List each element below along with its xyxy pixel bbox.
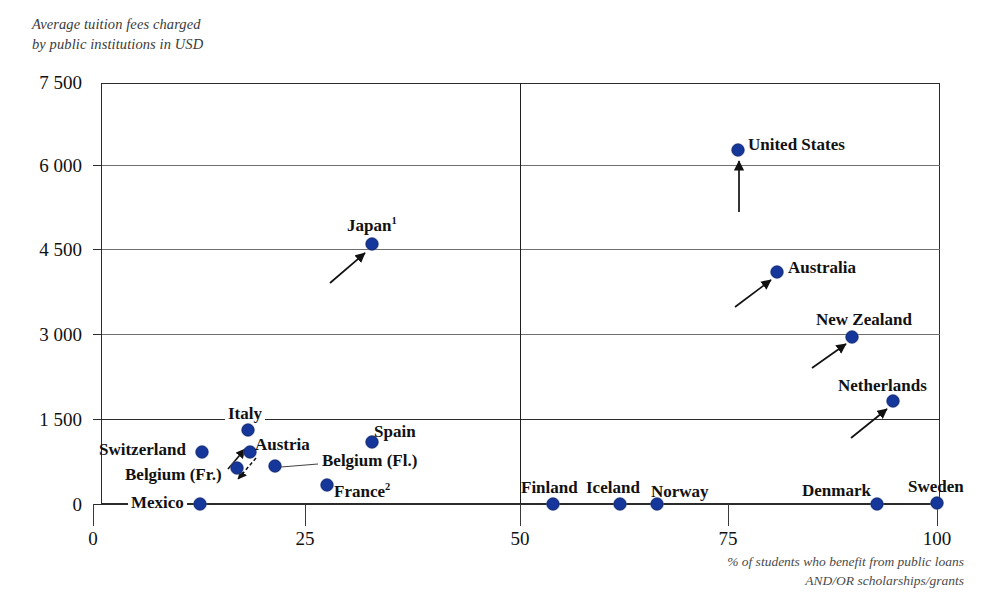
data-point-finland[interactable] <box>547 498 560 511</box>
label-iceland: Iceland <box>586 479 640 496</box>
label-sweden: Sweden <box>908 478 964 495</box>
y-tick-label-7500: 7 500 <box>22 72 82 94</box>
scatter-chart: Average tuition fees charged by public i… <box>0 0 990 606</box>
y-axis-title: Average tuition fees charged by public i… <box>32 14 203 54</box>
x-tick-mark-75 <box>728 504 729 526</box>
x-tick-label-0: 0 <box>88 528 98 550</box>
y-tick-label-4500: 4 500 <box>22 239 82 261</box>
data-point-japan[interactable] <box>366 238 379 251</box>
label-japan: Japan1 <box>344 216 400 234</box>
y-tick-mark-0 <box>93 504 102 505</box>
data-point-italy[interactable] <box>242 424 255 437</box>
x-tick-label-75: 75 <box>719 528 738 550</box>
data-point-netherlands[interactable] <box>887 395 900 408</box>
y-tick-label-1500: 1 500 <box>22 409 82 431</box>
data-point-denmark[interactable] <box>871 498 884 511</box>
y-tick-mark-4500 <box>93 249 102 250</box>
x-tick-label-100: 100 <box>923 528 952 550</box>
label-japan-text: Japan <box>347 216 391 235</box>
label-italy: Italy <box>225 405 265 422</box>
label-new-zealand: New Zealand <box>816 311 912 328</box>
x-tick-mark-25 <box>305 504 306 526</box>
data-point-switzerland[interactable] <box>196 446 209 459</box>
x-tick-label-25: 25 <box>296 528 315 550</box>
label-denmark: Denmark <box>802 482 871 499</box>
label-belgium-fr: Belgium (Fr.) <box>125 466 222 483</box>
label-united-states: United States <box>748 136 845 153</box>
x-tick-mark-0 <box>93 504 94 526</box>
data-point-france[interactable] <box>321 479 334 492</box>
data-point-united-states[interactable] <box>732 144 745 157</box>
label-spain: Spain <box>374 423 416 440</box>
label-france-note: 2 <box>385 481 390 492</box>
data-point-new-zealand[interactable] <box>846 331 859 344</box>
x-tick-label-50: 50 <box>511 528 530 550</box>
label-netherlands: Netherlands <box>838 377 927 394</box>
y-tick-label-3000: 3 000 <box>22 324 82 346</box>
label-france-text: France <box>334 482 385 501</box>
y-tick-label-0: 0 <box>22 494 82 516</box>
label-japan-note: 1 <box>391 215 396 226</box>
y-tick-mark-6000 <box>93 165 102 166</box>
vertical-divider-50 <box>520 83 521 504</box>
label-switzerland: Switzerland <box>99 441 186 458</box>
data-point-australia[interactable] <box>771 266 784 279</box>
y-tick-mark-3000 <box>93 334 102 335</box>
data-point-iceland[interactable] <box>614 498 627 511</box>
label-france: France2 <box>334 482 390 500</box>
x-axis-title: % of students who benefit from public lo… <box>727 552 964 590</box>
label-austria: Austria <box>255 436 310 453</box>
label-finland: Finland <box>521 479 578 496</box>
data-point-mexico[interactable] <box>194 498 207 511</box>
data-point-sweden[interactable] <box>931 497 944 510</box>
y-tick-label-6000: 6 000 <box>22 155 82 177</box>
data-point-belgium-fr[interactable] <box>231 462 244 475</box>
y-tick-mark-1500 <box>93 419 102 420</box>
label-mexico: Mexico <box>128 494 187 511</box>
x-tick-mark-50 <box>520 504 521 526</box>
label-norway: Norway <box>651 483 709 500</box>
label-belgium-fl: Belgium (Fl.) <box>322 452 417 469</box>
data-point-belgium-fl[interactable] <box>269 460 282 473</box>
label-australia: Australia <box>788 259 856 276</box>
